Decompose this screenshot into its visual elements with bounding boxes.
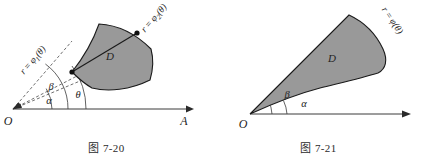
angle-arc-alpha: [284, 101, 288, 114]
outer-boundary-point: [134, 30, 139, 35]
figure-page: D r=φ1(θ) r=φ2(θ) α θ β O A 图 7-20: [0, 0, 425, 161]
figure-7-20-drawing: D r=φ1(θ) r=φ2(θ) α θ β O A: [0, 0, 213, 140]
figure-7-21-caption: 图 7-21: [212, 139, 425, 155]
origin-label-O: O: [4, 114, 13, 128]
curve-label-group: r=φ(θ): [379, 5, 405, 36]
figure-7-21-panel: D r=φ(θ) α β O 图 7-21: [212, 0, 425, 161]
polar-axis-left: [13, 106, 194, 113]
angle-label-beta: β: [47, 81, 54, 92]
angle-label-theta: θ: [75, 89, 80, 100]
polar-axis-right: [250, 111, 411, 118]
figure-7-20-panel: D r=φ1(θ) r=φ2(θ) α θ β O A 图 7-20: [0, 0, 213, 161]
inner-boundary-point: [69, 69, 74, 74]
region-label-D: D: [105, 50, 114, 62]
angle-label-alpha: α: [301, 98, 307, 109]
region-D-shape: [250, 15, 386, 114]
axis-end-label-A: A: [179, 114, 188, 128]
angle-label-beta: β: [283, 89, 290, 100]
axis-arrowhead-icon: [186, 106, 194, 113]
origin-label-O: O: [239, 117, 248, 131]
outer-curve-label-group: r=φ2(θ): [139, 2, 171, 36]
region-label-D: D: [327, 52, 336, 64]
outer-curve-label: r=φ2(θ): [139, 2, 171, 36]
figure-7-21-drawing: D r=φ(θ) α β O: [212, 0, 425, 140]
figure-7-20-caption: 图 7-20: [0, 139, 213, 155]
angle-label-alpha: α: [46, 95, 52, 106]
axis-arrowhead-icon: [402, 111, 411, 118]
curve-label: r=φ(θ): [379, 5, 405, 36]
